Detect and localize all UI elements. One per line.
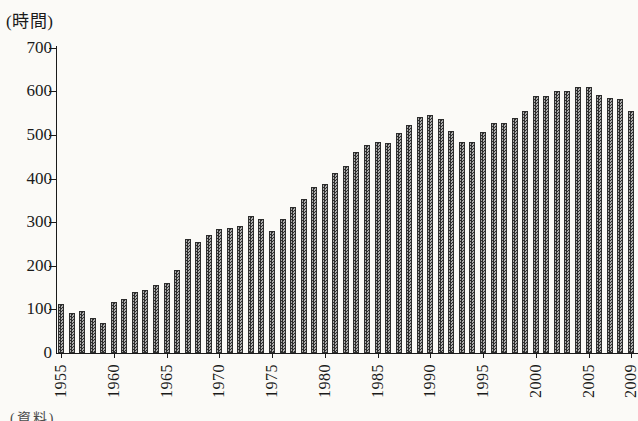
bar	[396, 133, 402, 353]
bar	[375, 142, 381, 353]
bar	[417, 117, 423, 353]
y-tick-label: 500	[0, 126, 52, 144]
bar	[512, 118, 518, 353]
bar	[227, 228, 233, 353]
bar	[90, 318, 96, 353]
bar	[522, 111, 528, 353]
x-tick-label: 1960	[106, 358, 122, 404]
bar	[216, 229, 222, 353]
bar	[480, 132, 486, 353]
bar	[100, 323, 106, 353]
bar	[79, 311, 85, 353]
bar	[142, 290, 148, 353]
bar	[448, 131, 454, 353]
bar	[607, 98, 613, 353]
y-axis-unit-label: (時間)	[6, 7, 53, 32]
bar	[385, 143, 391, 353]
bar	[501, 123, 507, 353]
bar	[353, 152, 359, 353]
bar	[617, 99, 623, 353]
bar-chart: (時間) 0100200300400500600700 195519601965…	[0, 0, 638, 421]
bar	[332, 173, 338, 353]
bar	[121, 299, 127, 353]
bar	[533, 96, 539, 353]
bar	[343, 166, 349, 353]
bar	[596, 95, 602, 353]
bar	[438, 119, 444, 353]
source-note: (資料)	[10, 411, 410, 421]
bar	[269, 231, 275, 353]
bar	[248, 216, 254, 353]
y-tick-label: 300	[0, 213, 52, 231]
bar	[554, 91, 560, 353]
x-tick-label: 1980	[317, 358, 333, 404]
x-tick-label: 1965	[159, 358, 175, 404]
bar	[469, 142, 475, 353]
bar	[195, 242, 201, 353]
x-tick-label: 2009	[623, 358, 638, 404]
bar	[132, 292, 138, 353]
bar	[575, 87, 581, 353]
bar	[111, 302, 117, 353]
bar	[364, 145, 370, 353]
x-tick-label: 2005	[581, 358, 597, 404]
x-tick-label: 1975	[264, 358, 280, 404]
bar	[237, 226, 243, 353]
bar	[322, 184, 328, 353]
bar	[153, 285, 159, 353]
y-tick-label: 0	[0, 344, 52, 362]
x-tick-label: 1970	[211, 358, 227, 404]
x-tick-label: 1985	[370, 358, 386, 404]
bar	[406, 125, 412, 353]
x-tick-label: 1995	[475, 358, 491, 404]
y-tick-label: 400	[0, 170, 52, 188]
bar	[164, 283, 170, 353]
bar	[301, 199, 307, 353]
bar	[69, 313, 75, 353]
y-tick-label: 200	[0, 257, 52, 275]
x-axis-line	[56, 353, 638, 354]
bar	[543, 96, 549, 353]
x-tick-label: 2000	[528, 358, 544, 404]
x-tick-label: 1990	[422, 358, 438, 404]
bar	[280, 219, 286, 353]
bar	[174, 270, 180, 353]
x-tick-label: 1955	[53, 358, 69, 404]
bar	[258, 219, 264, 353]
y-tick-label: 100	[0, 300, 52, 318]
bar	[491, 123, 497, 353]
bar	[290, 207, 296, 353]
bar	[206, 235, 212, 353]
bar	[459, 142, 465, 353]
bar	[586, 87, 592, 353]
y-tick-label: 700	[0, 39, 52, 57]
bar	[58, 304, 64, 353]
y-axis-line	[56, 46, 57, 353]
bar	[427, 115, 433, 353]
bar	[185, 239, 191, 353]
bar	[311, 187, 317, 353]
bar	[628, 111, 634, 353]
y-tick-label: 600	[0, 82, 52, 100]
bar	[564, 91, 570, 353]
